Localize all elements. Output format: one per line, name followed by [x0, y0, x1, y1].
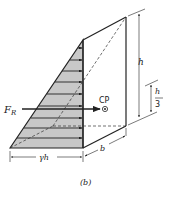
- pressure-prism-diagram: FR CP h h 3 γh b (b): [0, 0, 169, 204]
- figure-caption: (b): [80, 178, 91, 187]
- third-height-dimension: [145, 80, 163, 112]
- third-numerator: h: [155, 87, 160, 96]
- cp-label: CP: [99, 96, 110, 105]
- base-pressure-label: γh: [39, 153, 49, 162]
- width-dimension: [85, 128, 126, 156]
- width-label: b: [100, 144, 105, 153]
- height-label: h: [138, 57, 144, 67]
- prism-edges: [83, 17, 126, 148]
- force-label: FR: [3, 104, 17, 117]
- third-denominator: 3: [155, 100, 160, 109]
- height-dimension: [128, 9, 157, 125]
- center-of-pressure-marker: [102, 106, 107, 111]
